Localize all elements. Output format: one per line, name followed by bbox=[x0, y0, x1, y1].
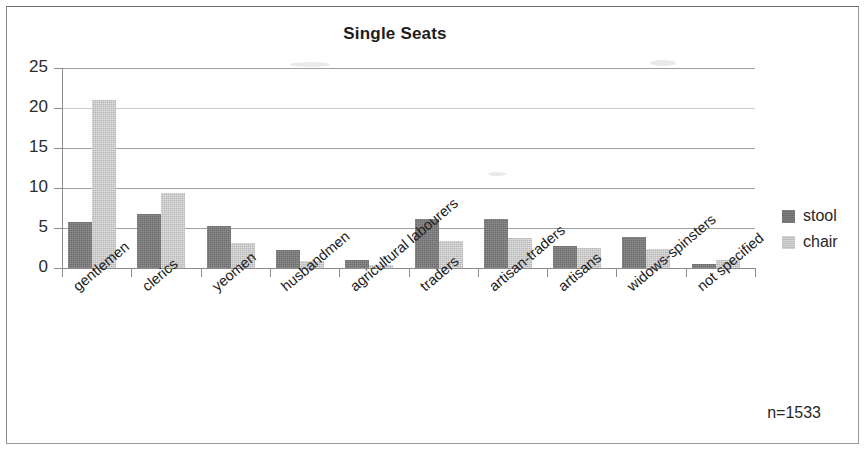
bar-stool[interactable] bbox=[68, 222, 92, 268]
y-axis-label-15: 15 bbox=[0, 137, 48, 157]
x-tick bbox=[478, 269, 479, 277]
legend-label: stool bbox=[803, 207, 837, 225]
bar-stool[interactable] bbox=[622, 237, 646, 268]
legend-swatch-icon bbox=[782, 210, 795, 223]
y-tick-15 bbox=[54, 148, 62, 149]
legend-item-stool[interactable]: stool bbox=[782, 203, 838, 229]
bar-group bbox=[131, 68, 200, 268]
y-axis-label-5: 5 bbox=[0, 217, 48, 237]
y-axis-label-0: 0 bbox=[0, 257, 48, 277]
bar-stool[interactable] bbox=[207, 226, 231, 268]
chart-title: Single Seats bbox=[0, 24, 790, 44]
bar-stool[interactable] bbox=[553, 246, 577, 268]
bar-stool[interactable] bbox=[484, 219, 508, 268]
x-tick bbox=[270, 269, 271, 277]
y-axis-label-20: 20 bbox=[0, 97, 48, 117]
y-tick-0 bbox=[54, 268, 62, 269]
bar-chair[interactable] bbox=[161, 193, 185, 268]
y-tick-20 bbox=[54, 108, 62, 109]
y-tick-5 bbox=[54, 228, 62, 229]
x-tick bbox=[686, 269, 687, 277]
x-tick bbox=[201, 269, 202, 277]
y-axis-line bbox=[62, 68, 63, 269]
bar-group bbox=[201, 68, 270, 268]
scan-artifact bbox=[290, 62, 330, 67]
y-axis-label-10: 10 bbox=[0, 177, 48, 197]
chart-container: Single Seats 0510152025gentlemenclericsy… bbox=[0, 0, 865, 450]
x-tick bbox=[131, 269, 132, 277]
x-tick bbox=[547, 269, 548, 277]
x-tick bbox=[339, 269, 340, 277]
scan-artifact bbox=[650, 60, 676, 66]
legend-swatch-icon bbox=[782, 236, 795, 249]
x-tick bbox=[755, 269, 756, 277]
x-tick bbox=[616, 269, 617, 277]
legend-label: chair bbox=[803, 233, 838, 251]
y-axis-label-25: 25 bbox=[0, 57, 48, 77]
y-tick-25 bbox=[54, 68, 62, 69]
y-tick-10 bbox=[54, 188, 62, 189]
bar-chair[interactable] bbox=[92, 100, 116, 268]
legend-item-chair[interactable]: chair bbox=[782, 229, 838, 255]
x-tick bbox=[62, 269, 63, 277]
x-tick bbox=[409, 269, 410, 277]
sample-size-annotation: n=1533 bbox=[767, 404, 821, 422]
bar-stool[interactable] bbox=[137, 214, 161, 268]
chart-legend: stoolchair bbox=[782, 203, 838, 255]
